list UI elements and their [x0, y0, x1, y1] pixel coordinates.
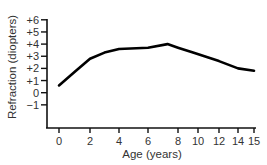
y-axis: +6+5+4+3+2+10−1: [26, 14, 47, 128]
y-tick-label: +2: [26, 62, 39, 74]
x-tick-label: 8: [175, 135, 181, 147]
x-tick-label: 2: [87, 135, 93, 147]
x-tick-label: 6: [145, 135, 151, 147]
y-tick-label: +1: [26, 75, 39, 87]
y-tick-label: −1: [26, 99, 39, 111]
y-tick-label: 0: [33, 87, 39, 99]
x-tick-label: 4: [116, 135, 122, 147]
y-tick-label: +3: [26, 50, 39, 62]
y-axis-label: Refraction (diopters): [6, 15, 18, 119]
refraction-line: [59, 44, 254, 85]
x-axis-label: Age (years): [122, 148, 182, 160]
x-tick-label: 0: [56, 135, 62, 147]
chart: +6+5+4+3+2+10−1 0246810121415 Age (years…: [0, 0, 267, 165]
y-tick-label: +6: [26, 14, 39, 26]
x-tick-label: 10: [192, 135, 204, 147]
x-tick-label: 14: [232, 135, 244, 147]
x-tick-label: 12: [213, 135, 225, 147]
y-tick-label: +5: [26, 26, 39, 38]
x-tick-label: 15: [248, 135, 260, 147]
x-axis: 0246810121415: [46, 128, 260, 147]
y-tick-label: +4: [26, 38, 39, 50]
